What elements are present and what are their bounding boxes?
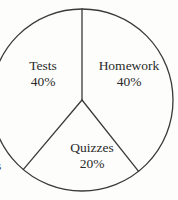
slice-label-homework: Homework 40%: [94, 58, 164, 90]
slice-label-tests-percent: 40%: [12, 74, 74, 90]
slice-label-homework-percent: 40%: [94, 74, 164, 90]
slice-label-tests-name: Tests: [12, 58, 74, 74]
slice-label-quizzes-name: Quizzes: [57, 140, 127, 156]
slice-label-quizzes-percent: 20%: [57, 156, 127, 172]
slice-label-tests: Tests 40%: [12, 58, 74, 90]
slice-label-quizzes: Quizzes 20%: [57, 140, 127, 172]
pie-chart-figure: Tests 40% Homework 40% Quizzes 20% s: [0, 0, 178, 200]
cropped-edge-text-fragment: s: [0, 158, 1, 174]
slice-label-homework-name: Homework: [94, 58, 164, 74]
